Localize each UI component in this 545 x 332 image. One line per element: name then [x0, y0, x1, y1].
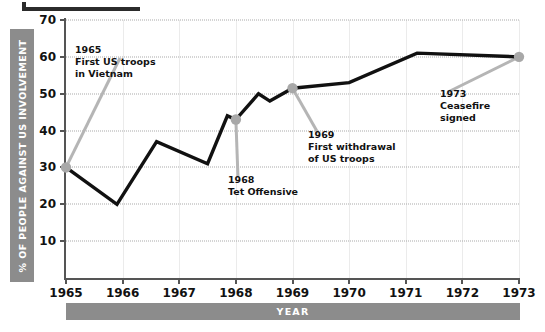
data-marker — [231, 114, 241, 124]
annotation-text: First withdrawal — [308, 141, 396, 153]
data-marker — [514, 52, 524, 62]
annotation-text: First US troops — [75, 56, 156, 68]
chart-figure: % OF PEOPLE AGAINST US INVOLVEMENT YEAR … — [0, 0, 545, 332]
annotation-1973: 1973Ceasefiresigned — [440, 88, 490, 124]
annotation-1968: 1968Tet Offensive — [228, 174, 298, 198]
annotation-1965: 1965First US troopsin Vietnam — [75, 44, 156, 80]
annotation-1969: 1969First withdrawalof US troops — [308, 129, 396, 165]
annotation-text: signed — [440, 112, 490, 124]
annotation-text: of US troops — [308, 153, 396, 165]
annotation-leader-line — [293, 88, 319, 133]
annotation-text: in Vietnam — [75, 68, 156, 80]
annotation-year: 1965 — [75, 44, 156, 56]
annotation-year: 1973 — [440, 88, 490, 100]
annotation-leader-line — [236, 120, 238, 178]
annotation-year: 1968 — [228, 174, 298, 186]
data-marker — [61, 162, 71, 172]
annotation-text: Ceasefire — [440, 100, 490, 112]
annotation-text: Tet Offensive — [228, 186, 298, 198]
annotation-year: 1969 — [308, 129, 396, 141]
annotation-leader-line — [448, 57, 519, 92]
data-marker — [287, 83, 297, 93]
